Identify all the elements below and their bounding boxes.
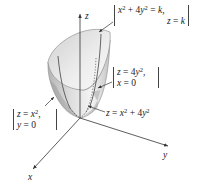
paraboloid-figure: z y x x2 + 4y2 = k, z = k z = 4y2, x = 0…: [0, 0, 198, 191]
horizontal-trace-line1: x2 + 4y2 = k,: [118, 5, 185, 16]
z-axis-label: z: [85, 11, 89, 21]
yz-trace-line1: z = 4y2,: [117, 67, 155, 78]
surface-equation-label: z = x2 + 4y2: [106, 108, 150, 118]
horizontal-trace-line2: z = k: [118, 16, 185, 27]
diagram-canvas: [0, 0, 198, 191]
yz-trace-line2: x = 0: [117, 78, 155, 89]
horizontal-trace-annotation: x2 + 4y2 = k, z = k: [114, 5, 189, 26]
y-axis-label: y: [163, 150, 167, 160]
x-axis-label: x: [28, 172, 32, 182]
y-axis: [80, 118, 168, 146]
xz-trace-annotation: z = x2, y = 0: [13, 109, 57, 130]
xz-trace-line2: y = 0: [17, 120, 53, 131]
xz-trace-line1: z = x2,: [17, 109, 53, 120]
yz-trace-annotation: z = 4y2, x = 0: [113, 67, 159, 88]
